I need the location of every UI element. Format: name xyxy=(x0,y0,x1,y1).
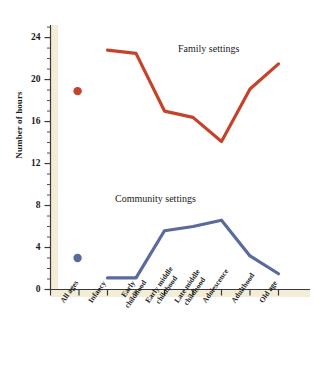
y-axis-tick-label: 8 xyxy=(19,200,41,210)
y-axis-tick-label: 16 xyxy=(19,116,41,126)
y-axis-tick-label: 0 xyxy=(19,284,41,294)
series-line-family-settings xyxy=(108,50,279,141)
series-annotation-label: Community settings xyxy=(115,193,196,204)
y-axis-ticks xyxy=(45,27,51,289)
chart-container: Number of hours 04812162024 All agesInfa… xyxy=(0,0,321,366)
y-axis-tick-label: 4 xyxy=(19,242,41,252)
series-marker-community-settings-all-ages xyxy=(73,254,81,262)
series-annotation-label: Family settings xyxy=(178,43,239,54)
y-axis-tick-label: 24 xyxy=(19,32,41,42)
y-axis-tick-label: 20 xyxy=(19,74,41,84)
y-axis-band xyxy=(50,25,58,289)
chart-canvas xyxy=(0,0,321,366)
y-axis-tick-label: 12 xyxy=(19,158,41,168)
series-marker-family-settings-all-ages xyxy=(73,87,81,95)
